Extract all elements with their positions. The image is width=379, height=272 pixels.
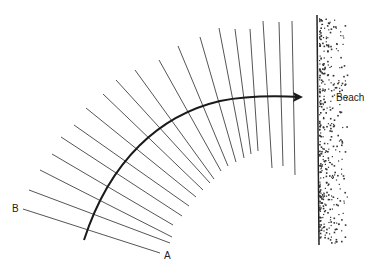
wave-refraction-diagram: [0, 0, 379, 272]
wave-crest-lines: [23, 21, 295, 253]
beach-shoreline: [317, 15, 348, 245]
orthogonal-arrow: [84, 92, 303, 240]
beach-label: Beach: [336, 93, 364, 103]
label-a: A: [164, 251, 171, 261]
label-b: B: [12, 204, 19, 214]
sand-stipple: [319, 18, 348, 244]
